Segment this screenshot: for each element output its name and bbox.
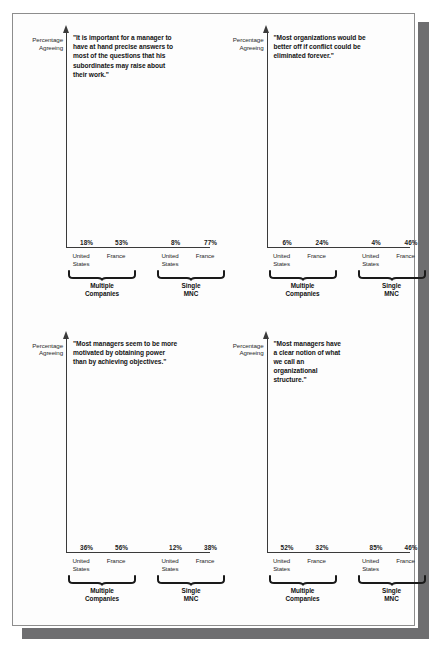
bars-container: 18% 53% 8% 77% [67,32,208,247]
y-axis-label-line2: Agreeing [19,349,63,357]
tick-line1: United [153,557,187,565]
group-multiple-companies: Multiple Companies [67,575,137,604]
brace-icon [67,270,137,281]
group-label-line2: Companies [268,595,338,603]
tick-line2: States [354,260,388,268]
bar-value-0: 18% [68,239,105,246]
y-axis-label: Percentage Agreeing [19,342,63,357]
bar-value-2: 85% [358,544,395,551]
bar-value-0: 6% [269,239,306,246]
bar-value-1: 24% [304,239,341,246]
tick-label-united-states: United States [354,252,388,268]
bars-container: 52% 32% 85% 46% [268,338,409,553]
brace-icon [67,575,137,586]
bar-value-1: 53% [103,239,140,246]
y-axis-label-line2: Agreeing [220,349,264,357]
tick-line2: States [265,260,299,268]
y-axis-label: Percentage Agreeing [19,36,63,51]
group-label-line2: Companies [67,290,137,298]
tick-line1: United [265,557,299,565]
tick-line1: France [389,252,423,260]
tick-line2: States [153,565,187,573]
brace-icon [268,270,338,281]
plot-area: "Most organizations would be better off … [267,32,409,248]
group-multiple-companies: Multiple Companies [67,270,137,299]
bar-value-3: 46% [393,544,430,551]
x-tick-labels: United States France United States Franc… [268,252,409,272]
tick-line1: France [300,557,334,565]
group-label-line2: MNC [357,595,427,603]
group-label-line1: Single [357,587,427,595]
tick-line1: United [354,557,388,565]
brace-icon [357,575,427,586]
group-label-line1: Multiple [67,282,137,290]
bar-value-1: 32% [304,544,341,551]
x-axis-line [66,247,210,248]
y-axis-label: Percentage Agreeing [220,36,264,51]
group-label: Multiple Companies [268,587,338,604]
tick-line2: States [153,260,187,268]
group-label-line2: Companies [268,290,338,298]
brace-icon [268,575,338,586]
charts-grid: Percentage Agreeing "It is important for… [13,14,414,625]
chart-panel-top-left: Percentage Agreeing "It is important for… [13,14,214,320]
tick-line1: France [389,557,423,565]
tick-line1: France [300,252,334,260]
plot-area: "It is important for a manager to have a… [66,32,208,248]
tick-line1: France [99,252,133,260]
tick-label-united-states: United States [265,557,299,573]
bars-container: 36% 56% 12% 38% [67,338,208,553]
group-label-line2: Companies [67,595,137,603]
group-single-mnc: Single MNC [357,270,427,299]
group-label-line2: MNC [357,290,427,298]
group-label-line1: Multiple [67,587,137,595]
y-axis-label: Percentage Agreeing [220,342,264,357]
group-label: Multiple Companies [67,587,137,604]
tick-label-france: France [300,252,334,260]
chart-panel-top-right: Percentage Agreeing "Most organizations … [214,14,415,320]
bar-value-2: 4% [358,239,395,246]
y-axis-label-line1: Percentage [19,36,63,44]
y-axis-label-line2: Agreeing [19,44,63,52]
bar-value-0: 36% [68,544,105,551]
x-axis-line [267,247,411,248]
plot-area: "Most managers seem to be more motivated… [66,338,208,554]
group-label-line1: Multiple [268,282,338,290]
tick-label-united-states: United States [64,252,98,268]
x-tick-labels: United States France United States Franc… [67,252,208,272]
group-label: Multiple Companies [67,282,137,299]
tick-label-france: France [389,252,423,260]
y-axis-label-line1: Percentage [220,36,264,44]
x-axis-line [267,552,411,553]
bar-value-1: 56% [103,544,140,551]
y-axis-label-line1: Percentage [220,342,264,350]
tick-label-united-states: United States [153,557,187,573]
group-single-mnc: Single MNC [357,575,427,604]
tick-line2: States [64,565,98,573]
bar-value-2: 12% [157,544,194,551]
chart-panel-bottom-left: Percentage Agreeing "Most managers seem … [13,320,214,626]
tick-label-france: France [99,252,133,260]
tick-line2: States [354,565,388,573]
tick-line1: United [64,252,98,260]
group-braces: Multiple Companies Single MNC [268,270,409,312]
tick-line1: United [153,252,187,260]
tick-line1: France [99,557,133,565]
y-axis-label-line1: Percentage [19,342,63,350]
bar-value-3: 46% [393,239,430,246]
group-multiple-companies: Multiple Companies [268,575,338,604]
brace-icon [357,270,427,281]
x-axis-line [66,552,210,553]
group-braces: Multiple Companies Single MNC [268,575,409,617]
bars-container: 6% 24% 4% 46% [268,32,409,247]
group-braces: Multiple Companies Single MNC [67,575,208,617]
bar-value-2: 8% [157,239,194,246]
tick-label-united-states: United States [153,252,187,268]
tick-label-united-states: United States [265,252,299,268]
tick-line2: States [64,260,98,268]
group-multiple-companies: Multiple Companies [268,270,338,299]
tick-label-united-states: United States [64,557,98,573]
tick-line1: United [354,252,388,260]
tick-line1: United [265,252,299,260]
y-axis-label-line2: Agreeing [220,44,264,52]
